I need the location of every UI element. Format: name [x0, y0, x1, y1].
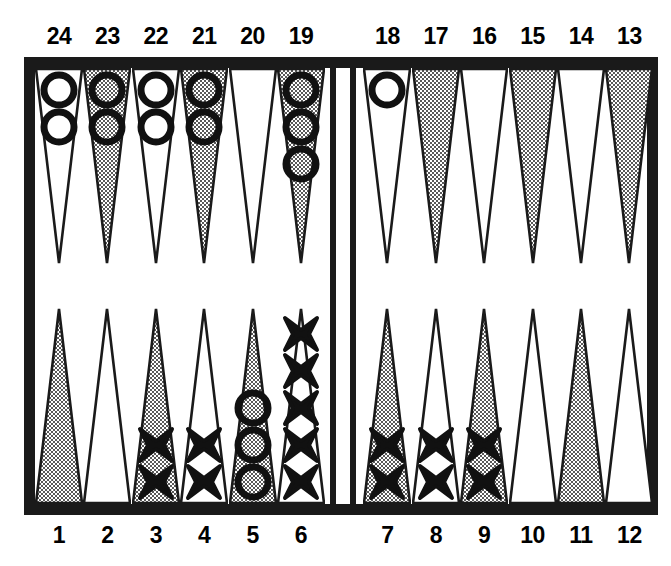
checker-stack-point-9[interactable] [460, 307, 508, 504]
checker-stack-point-8[interactable] [412, 307, 460, 504]
checker-stack-point-6[interactable] [277, 307, 325, 504]
checker-o-point-5[interactable] [234, 389, 272, 427]
point-label-13: 13 [605, 22, 653, 50]
checker-x-point-9[interactable] [465, 426, 503, 464]
checker-stack-point-19[interactable] [277, 68, 325, 265]
checker-stack-point-5[interactable] [229, 307, 277, 504]
checker-x-point-6[interactable] [282, 352, 320, 390]
checker-o-point-5[interactable] [234, 463, 272, 501]
checker-stack-point-3[interactable] [132, 307, 180, 504]
point-label-15: 15 [509, 22, 557, 50]
checker-o-point-21[interactable] [185, 108, 223, 146]
checker-o-point-22[interactable] [137, 71, 175, 109]
point-label-22: 22 [132, 22, 180, 50]
checker-x-point-6[interactable] [282, 389, 320, 427]
point-label-7: 7 [363, 521, 411, 549]
checker-x-point-3[interactable] [137, 463, 175, 501]
point-16[interactable] [460, 68, 508, 265]
checker-o-point-19[interactable] [282, 145, 320, 183]
point-label-10: 10 [509, 521, 557, 549]
checker-o-point-23[interactable] [88, 108, 126, 146]
point-12[interactable] [605, 307, 653, 504]
point-label-5: 5 [229, 521, 277, 549]
checker-o-point-23[interactable] [88, 71, 126, 109]
point-label-16: 16 [460, 22, 508, 50]
backgammon-board-figure: 242322212019181716151413 123456789101112 [0, 0, 671, 566]
point-label-20: 20 [229, 22, 277, 50]
checker-x-point-8[interactable] [417, 426, 455, 464]
point-label-11: 11 [557, 521, 605, 549]
point-label-14: 14 [557, 22, 605, 50]
checker-o-point-22[interactable] [137, 108, 175, 146]
point-label-12: 12 [605, 521, 653, 549]
point-label-4: 4 [180, 521, 228, 549]
top-point-label-row: 242322212019181716151413 [0, 22, 671, 52]
point-10[interactable] [509, 307, 557, 504]
checker-stack-point-22[interactable] [132, 68, 180, 265]
point-2[interactable] [83, 307, 131, 504]
point-label-9: 9 [460, 521, 508, 549]
point-label-24: 24 [35, 22, 83, 50]
checker-x-point-6[interactable] [282, 315, 320, 353]
checker-stack-point-7[interactable] [363, 307, 411, 504]
point-15[interactable] [509, 68, 557, 265]
point-label-6: 6 [277, 521, 325, 549]
checker-stack-point-24[interactable] [35, 68, 83, 265]
point-label-3: 3 [132, 521, 180, 549]
point-13[interactable] [605, 68, 653, 265]
board-bar[interactable] [330, 68, 356, 504]
point-label-8: 8 [412, 521, 460, 549]
point-label-21: 21 [180, 22, 228, 50]
checker-o-point-21[interactable] [185, 71, 223, 109]
checker-o-point-5[interactable] [234, 426, 272, 464]
checker-o-point-24[interactable] [40, 71, 78, 109]
point-label-23: 23 [83, 22, 131, 50]
bottom-point-label-row: 123456789101112 [0, 521, 671, 551]
checker-x-point-9[interactable] [465, 463, 503, 501]
point-label-18: 18 [363, 22, 411, 50]
checker-o-point-18[interactable] [368, 71, 406, 109]
point-label-19: 19 [277, 22, 325, 50]
checker-x-point-4[interactable] [185, 426, 223, 464]
checker-x-point-3[interactable] [137, 426, 175, 464]
point-11[interactable] [557, 307, 605, 504]
checker-x-point-6[interactable] [282, 426, 320, 464]
point-14[interactable] [557, 68, 605, 265]
checker-o-point-19[interactable] [282, 71, 320, 109]
checker-x-point-6[interactable] [282, 463, 320, 501]
checker-stack-point-21[interactable] [180, 68, 228, 265]
checker-o-point-24[interactable] [40, 108, 78, 146]
checker-x-point-8[interactable] [417, 463, 455, 501]
point-label-1: 1 [35, 521, 83, 549]
point-20[interactable] [229, 68, 277, 265]
point-17[interactable] [412, 68, 460, 265]
checker-stack-point-18[interactable] [363, 68, 411, 265]
point-label-2: 2 [83, 521, 131, 549]
checker-x-point-7[interactable] [368, 426, 406, 464]
checker-x-point-7[interactable] [368, 463, 406, 501]
checker-x-point-4[interactable] [185, 463, 223, 501]
checker-o-point-19[interactable] [282, 108, 320, 146]
checker-stack-point-23[interactable] [83, 68, 131, 265]
point-1[interactable] [35, 307, 83, 504]
checker-stack-point-4[interactable] [180, 307, 228, 504]
point-label-17: 17 [412, 22, 460, 50]
